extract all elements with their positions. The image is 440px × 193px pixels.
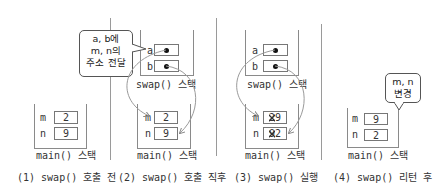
cell-a [263,44,288,56]
callout-values-changed: m, n 변경 [385,73,421,103]
panel-caption: (2) swap() 호출 직후 [118,172,226,184]
swap-stack-label: swap() 스택 [247,79,307,91]
cell-m: 9 [364,113,388,125]
var-label-n: n [352,129,358,141]
main-stack-label: main() 스택 [36,150,96,162]
var-label-n: n [253,128,259,140]
pointer-dot [273,64,278,69]
cell-b [154,60,179,72]
callout-line: 변경 [386,88,420,100]
var-label-n: n [145,128,151,140]
panel-caption: (3) swap() 실행 [234,172,318,184]
main-stack-label: main() 스택 [348,150,408,162]
var-label-m: m [145,112,151,124]
old-value-struck: 2 [269,112,275,124]
callout-line: m, n [386,76,420,88]
old-value-struck: 9 [269,128,275,140]
var-label-a: a [252,45,258,57]
var-label-n: n [40,128,46,140]
var-label-m: m [253,112,259,124]
cell-n: 2 [364,129,388,141]
cell-m: 2 [154,111,178,124]
panel-caption: (1) swap() 호출 전 [17,172,116,184]
pointer-dot [164,64,169,69]
cell-n: 9 [54,127,78,140]
swap-stack-label: swap() 스택 [136,79,196,91]
panel-divider-2 [216,18,217,156]
panel-caption: (4) swap() 리턴 후 [333,172,432,184]
callout-line: 주소 전달 [80,57,132,69]
cell-n: 9 [154,127,178,140]
callout-line: m, n의 [80,45,132,57]
var-label-b: b [252,61,258,73]
main-stack-label: main() 스택 [137,150,197,162]
callout-address-pass: a, b에 m, n의 주소 전달 [79,30,133,77]
pointer-dot [273,48,278,53]
var-label-m: m [352,113,358,125]
cell-b [263,60,288,72]
cell-m: 2 [54,111,78,124]
pointer-dot [164,48,169,53]
arrows-overlay [0,0,440,193]
var-label-m: m [40,112,46,124]
new-value: 9 [275,112,281,123]
cell-m: 29 [263,111,287,124]
new-value: 2 [275,128,281,139]
var-label-a: a [147,45,153,57]
cell-a [154,44,179,56]
var-label-b: b [147,61,153,73]
cell-n: 92 [263,127,287,140]
callout-line: a, b에 [80,33,132,45]
panel-divider-3 [321,24,322,160]
main-stack-label: main() 스택 [245,150,305,162]
